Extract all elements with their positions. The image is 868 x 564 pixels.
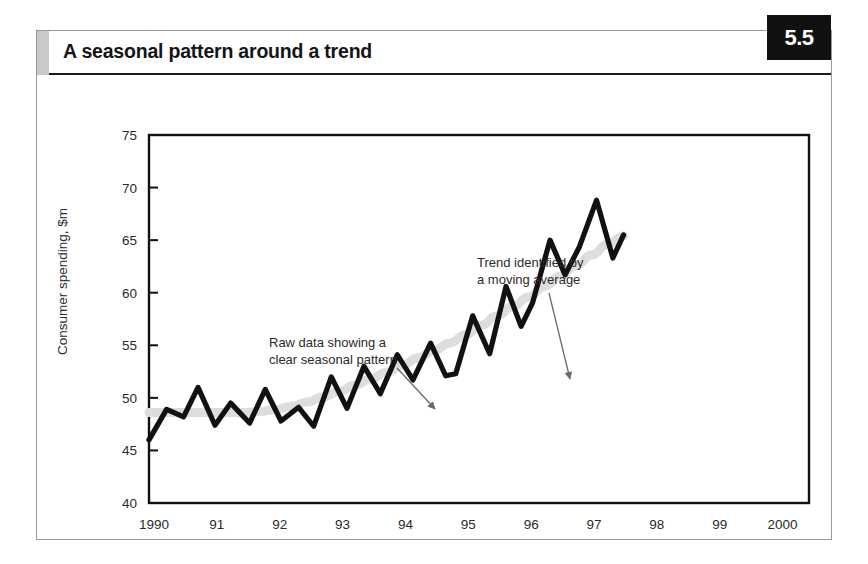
x-tick-label: 99 — [712, 517, 727, 532]
line-chart: Consumer spending, $m 4045505560657075 1… — [37, 75, 833, 541]
x-axis-ticks: 19909192939495969798992000 — [139, 517, 798, 532]
y-tick-label: 55 — [122, 338, 137, 353]
y-axis-ticks: 4045505560657075 — [122, 128, 158, 511]
x-tick-label: 93 — [335, 517, 350, 532]
plot-frame — [149, 135, 809, 503]
figure-header: A seasonal pattern around a trend 5.5 — [37, 31, 831, 75]
figure-container: A seasonal pattern around a trend 5.5 Co… — [36, 30, 832, 540]
x-tick-label: 97 — [586, 517, 601, 532]
raw-data-line-path — [149, 200, 624, 440]
trend-annotation-line2: a moving average — [477, 272, 580, 287]
y-tick-label: 45 — [122, 443, 137, 458]
x-tick-label: 92 — [272, 517, 287, 532]
raw-data-annotation-line1: Raw data showing a — [269, 335, 387, 350]
y-tick-label: 60 — [122, 286, 137, 301]
x-tick-label: 2000 — [768, 517, 798, 532]
x-tick-label: 1990 — [139, 517, 169, 532]
x-tick-label: 96 — [524, 517, 539, 532]
x-tick-label: 98 — [649, 517, 664, 532]
trend-annotation-arrow — [549, 293, 570, 379]
y-axis-title: Consumer spending, $m — [55, 208, 70, 355]
y-tick-label: 70 — [122, 181, 137, 196]
y-tick-label: 50 — [122, 391, 137, 406]
header-accent-block — [37, 31, 49, 75]
plot-area-wrapper: Consumer spending, $m 4045505560657075 1… — [37, 75, 833, 541]
figure-number-badge: 5.5 — [767, 15, 831, 60]
page-title: A seasonal pattern around a trend — [63, 40, 372, 63]
y-axis-title-text: Consumer spending, $m — [55, 208, 70, 355]
annotation-group: Raw data showing aclear seasonal pattern… — [269, 255, 584, 409]
x-tick-label: 91 — [209, 517, 224, 532]
x-tick-label: 94 — [398, 517, 414, 532]
trend-annotation-line1: Trend identified by — [477, 255, 584, 270]
y-tick-label: 65 — [122, 233, 137, 248]
raw-data-annotation-line2: clear seasonal pattern — [269, 352, 397, 367]
y-tick-label: 75 — [122, 128, 137, 143]
y-tick-label: 40 — [122, 496, 137, 511]
x-tick-label: 95 — [461, 517, 476, 532]
